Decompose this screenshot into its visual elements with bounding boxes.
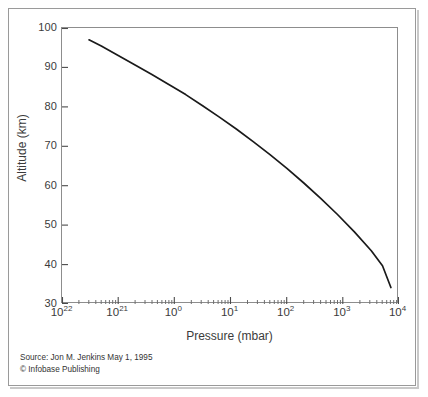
pressure-altitude-curve bbox=[89, 40, 391, 288]
x-tick-exponent: 0 bbox=[177, 304, 181, 313]
x-tick-base: 10 bbox=[51, 306, 64, 318]
x-tick-exponent: 22 bbox=[63, 304, 72, 313]
x-tick-label: 104 bbox=[368, 306, 428, 318]
plot-canvas bbox=[62, 28, 399, 304]
x-axis-title: Pressure (mbar) bbox=[61, 329, 398, 343]
x-tick-base: 10 bbox=[165, 306, 178, 318]
x-tick-label: 102 bbox=[256, 306, 316, 318]
x-tick-exponent: 2 bbox=[290, 304, 294, 313]
y-axis-title: Altitude (km) bbox=[15, 78, 29, 218]
x-tick-label: 100 bbox=[143, 306, 203, 318]
x-tick-exponent: 21 bbox=[119, 304, 128, 313]
chart-credits: Source: Jon M. Jenkins May 1, 1995 © Inf… bbox=[20, 352, 152, 375]
x-axis-tick-labels: 1022 1021 100 101 102 103 104 bbox=[0, 306, 428, 328]
x-tick-label: 103 bbox=[312, 306, 372, 318]
x-tick-label: 1022 bbox=[32, 306, 92, 318]
x-tick-exponent: 4 bbox=[402, 304, 406, 313]
x-tick-base: 10 bbox=[277, 306, 290, 318]
x-tick-exponent: 3 bbox=[346, 304, 350, 313]
credit-copyright-line: © Infobase Publishing bbox=[20, 364, 152, 376]
x-tick-base: 10 bbox=[333, 306, 346, 318]
plot-area bbox=[61, 27, 398, 303]
y-tick-label: 50 bbox=[17, 219, 57, 229]
y-tick-label: 40 bbox=[17, 259, 57, 269]
x-tick-label: 101 bbox=[200, 306, 260, 318]
x-tick-base: 10 bbox=[106, 306, 119, 318]
x-tick-base: 10 bbox=[389, 306, 402, 318]
x-tick-exponent: 1 bbox=[234, 304, 238, 313]
y-axis-major-ticks bbox=[62, 29, 68, 304]
x-tick-base: 10 bbox=[221, 306, 234, 318]
chart-figure: 100 90 80 70 60 50 40 30 Altitude (km) bbox=[0, 0, 428, 397]
y-tick-label: 90 bbox=[17, 61, 57, 71]
credit-source-line: Source: Jon M. Jenkins May 1, 1995 bbox=[20, 352, 152, 364]
x-tick-label: 1021 bbox=[87, 306, 147, 318]
y-tick-label: 100 bbox=[17, 22, 57, 32]
